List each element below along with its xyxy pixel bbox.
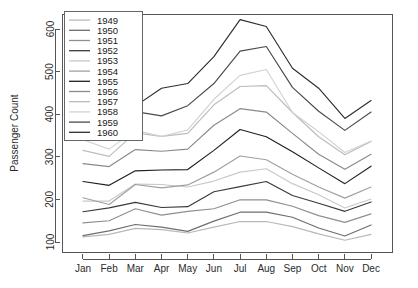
y-axis: 100200300400500600 (45, 20, 61, 250)
y-tick-label: 500 (45, 63, 56, 80)
legend-label-1960: 1960 (97, 127, 118, 138)
x-tick-label: Sep (284, 263, 302, 274)
y-tick-label: 400 (45, 105, 56, 122)
x-tick-label: Nov (336, 263, 354, 274)
seasonal-line-chart: 100200300400500600 JanFebMarAprMayJunJul… (0, 0, 418, 288)
chart-container: 100200300400500600 JanFebMarAprMayJunJul… (0, 0, 418, 288)
x-tick-label: Dec (362, 263, 380, 274)
y-tick-label: 600 (45, 20, 56, 37)
x-tick-label: Mar (127, 263, 145, 274)
series-line-1953 (83, 169, 371, 208)
x-tick-label: Jul (234, 263, 247, 274)
series-line-1954 (83, 156, 371, 205)
x-axis: JanFebMarAprMayJunJulAugSepOctNovDec (75, 254, 380, 274)
series-line-1952 (83, 182, 371, 212)
x-tick-label: Aug (257, 263, 275, 274)
x-tick-label: Oct (311, 263, 327, 274)
y-tick-label: 100 (45, 233, 56, 250)
y-tick-label: 200 (45, 191, 56, 208)
series-line-1951 (83, 200, 371, 223)
y-tick-label: 300 (45, 148, 56, 165)
x-tick-label: May (178, 263, 197, 274)
legend: 1949195019511952195319541955195619571958… (64, 11, 142, 140)
x-tick-label: Jun (206, 263, 222, 274)
x-tick-label: Apr (154, 263, 170, 274)
x-tick-label: Feb (101, 263, 119, 274)
x-tick-label: Jan (75, 263, 91, 274)
y-axis-title: Passenger Count (9, 94, 20, 171)
